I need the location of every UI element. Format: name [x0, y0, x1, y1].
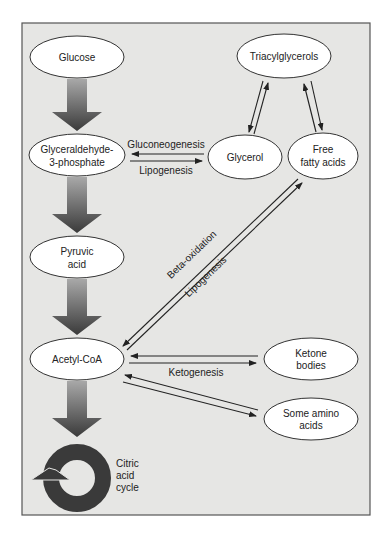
label-amino-1: Some amino [283, 408, 340, 419]
label-cycle-2: acid [116, 470, 134, 481]
node-pyruvic-acid [30, 236, 124, 278]
label-pyruvic-1: Pyruvic [61, 246, 94, 257]
node-some-amino-acids [264, 398, 358, 440]
label-glyceraldehyde-2: 3-phosphate [49, 157, 105, 168]
node-glyceraldehyde-3-phosphate [29, 134, 125, 176]
metabolism-diagram: Glucose Triacylglycerols Glyceraldehyde-… [0, 0, 387, 538]
label-glyceraldehyde-1: Glyceraldehyde- [41, 144, 114, 155]
label-glucose: Glucose [59, 52, 96, 63]
label-acetyl-coa: Acetyl-CoA [52, 354, 102, 365]
label-glycerol: Glycerol [227, 152, 264, 163]
label-ketone-2: bodies [296, 360, 325, 371]
edge-label-lipogenesis-top: Lipogenesis [139, 165, 192, 176]
label-ketone-1: Ketone [295, 348, 327, 359]
label-pyruvic-2: acid [68, 259, 86, 270]
node-ketone-bodies [264, 338, 358, 380]
label-ffa-1: Free [313, 144, 334, 155]
label-ffa-2: fatty acids [300, 157, 345, 168]
node-free-fatty-acids [288, 133, 358, 179]
label-cycle-1: Citric [116, 458, 139, 469]
edge-label-ketogenesis: Ketogenesis [168, 367, 223, 378]
label-amino-2: acids [299, 420, 322, 431]
label-triacylglycerols: Triacylglycerols [250, 51, 319, 62]
label-cycle-3: cycle [116, 482, 139, 493]
edge-label-gluconeogenesis: Gluconeogenesis [127, 139, 204, 150]
